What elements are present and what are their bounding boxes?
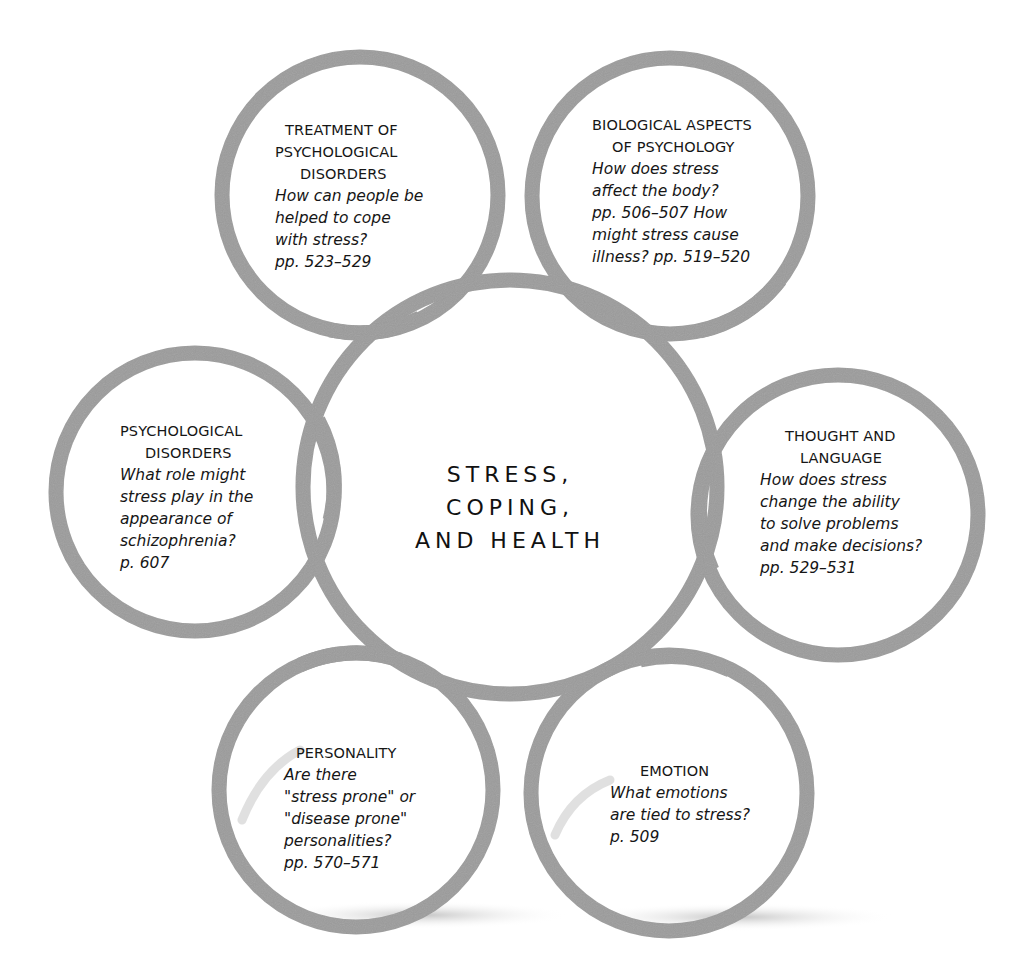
ring-treatment-overlap — [330, 318, 420, 333]
node-title-line: DISORDERS — [275, 163, 455, 185]
node-psychological-disorders: PSYCHOLOGICAL DISORDERS What role might … — [120, 420, 290, 574]
node-body-line: "disease prone" — [284, 808, 464, 830]
center-line-3: AND HEALTH — [400, 524, 620, 557]
node-body-line: to solve problems — [760, 513, 960, 535]
node-title-line: DISORDERS — [120, 442, 290, 464]
node-title-line: EMOTION — [610, 760, 790, 782]
node-biological: BIOLOGICAL ASPECTS OF PSYCHOLOGY How doe… — [592, 114, 792, 268]
node-body-line: schizophrenia? — [120, 530, 290, 552]
center-line-2: COPING, — [400, 491, 620, 524]
node-thought-language: THOUGHT AND LANGUAGE How does stress cha… — [760, 425, 960, 579]
node-title-line: PSYCHOLOGICAL — [275, 141, 455, 163]
node-body-line: How does stress — [592, 158, 792, 180]
node-body-line: What emotions — [610, 782, 790, 804]
node-treatment: TREATMENT OF PSYCHOLOGICAL DISORDERS How… — [275, 119, 455, 273]
node-body-line: pp. 570–571 — [284, 852, 464, 874]
node-body-line: pp. 523–529 — [275, 251, 455, 273]
node-title-line: PSYCHOLOGICAL — [120, 420, 290, 442]
node-body-line: personalities? — [284, 830, 464, 852]
node-body-line: What role might — [120, 464, 290, 486]
node-body-line: affect the body? — [592, 180, 792, 202]
node-body-line: illness? pp. 519–520 — [592, 246, 792, 268]
node-body-line: appearance of — [120, 508, 290, 530]
node-body-line: and make decisions? — [760, 535, 960, 557]
ring-personality-overlap — [300, 653, 400, 665]
node-emotion: EMOTION What emotions are tied to stress… — [610, 760, 790, 848]
node-title-line: THOUGHT AND — [760, 425, 960, 447]
node-body-line: are tied to stress? — [610, 804, 790, 826]
node-title-line: PERSONALITY — [284, 742, 464, 764]
node-body-line: How does stress — [760, 469, 960, 491]
center-topic: STRESS, COPING, AND HEALTH — [400, 458, 620, 557]
node-title-line: BIOLOGICAL ASPECTS — [592, 114, 792, 136]
shadow-arc-emotion — [555, 780, 610, 835]
node-body-line: p. 509 — [610, 826, 790, 848]
node-body-line: pp. 506–507 How — [592, 202, 792, 224]
center-line-1: STRESS, — [400, 458, 620, 491]
node-body-line: p. 607 — [120, 552, 290, 574]
node-body-line: Are there — [284, 764, 464, 786]
node-body-line: How can people be — [275, 185, 455, 207]
node-title-line: LANGUAGE — [760, 447, 960, 469]
ring-emotion-overlap — [640, 657, 730, 670]
node-body-line: stress play in the — [120, 486, 290, 508]
node-title-line: TREATMENT OF — [275, 119, 455, 141]
ring-psych-overlap — [318, 420, 334, 520]
node-body-line: with stress? — [275, 229, 455, 251]
node-personality: PERSONALITY Are there "stress prone" or … — [284, 742, 464, 874]
node-body-line: pp. 529–531 — [760, 557, 960, 579]
node-title-line: OF PSYCHOLOGY — [592, 136, 792, 158]
node-body-line: helped to cope — [275, 207, 455, 229]
node-body-line: "stress prone" or — [284, 786, 464, 808]
ring-biological-overlap — [700, 280, 780, 331]
node-body-line: change the ability — [760, 491, 960, 513]
node-body-line: might stress cause — [592, 224, 792, 246]
